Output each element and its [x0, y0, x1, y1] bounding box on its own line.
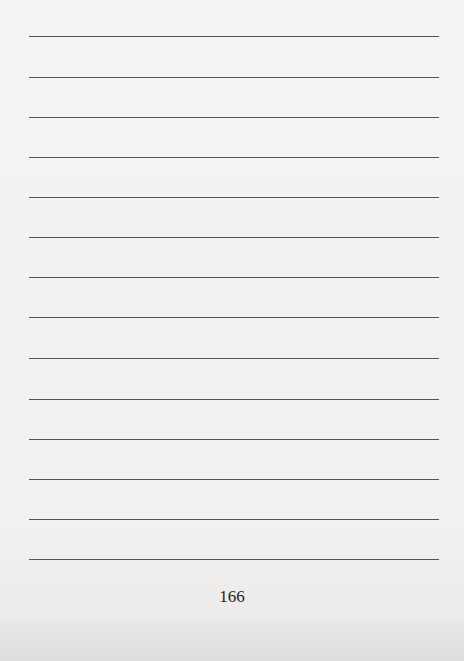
- ruled-line: [29, 157, 439, 158]
- ruled-line: [29, 36, 439, 37]
- ruled-line: [29, 77, 439, 78]
- ruled-line: [29, 237, 439, 238]
- ruled-line: [29, 439, 439, 440]
- ruled-line: [29, 197, 439, 198]
- ruled-line: [29, 519, 439, 520]
- ruled-line: [29, 479, 439, 480]
- page-number: 166: [0, 587, 464, 607]
- ruled-line: [29, 317, 439, 318]
- ruled-line: [29, 358, 439, 359]
- ruled-line: [29, 559, 439, 560]
- ruled-line: [29, 117, 439, 118]
- page-edge-shadow: [0, 616, 464, 661]
- ruled-line: [29, 399, 439, 400]
- ruled-page: 166: [0, 0, 464, 661]
- ruled-line: [29, 277, 439, 278]
